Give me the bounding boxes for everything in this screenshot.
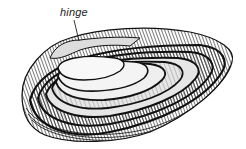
shell-illustration: hinge xyxy=(0,0,246,149)
shell-drawing xyxy=(0,0,246,149)
hinge-label: hinge xyxy=(60,6,88,18)
